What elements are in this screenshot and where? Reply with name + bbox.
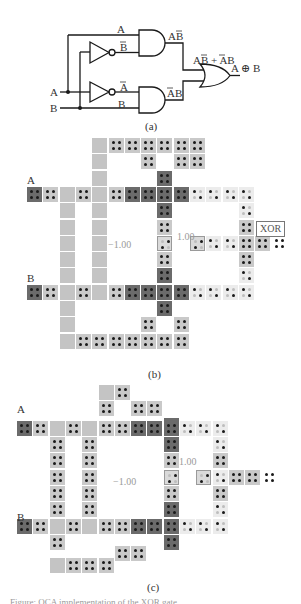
quantum-dot-icon — [108, 430, 111, 433]
quantum-dot-icon — [75, 430, 78, 433]
quantum-dot-icon — [150, 404, 153, 407]
quantum-dot-icon — [150, 424, 153, 427]
quantum-dot-icon — [53, 479, 56, 482]
qca-cell-out — [262, 470, 277, 485]
quantum-dot-icon — [102, 410, 105, 413]
quantum-dot-icon — [53, 511, 56, 514]
quantum-dot-icon — [200, 474, 203, 477]
quantum-dot-icon — [167, 446, 170, 449]
quantum-dot-icon — [216, 479, 219, 482]
quantum-dot-icon — [102, 567, 105, 570]
quantum-dot-icon — [173, 538, 176, 541]
quantum-dot-icon — [134, 528, 137, 531]
quantum-dot-icon — [271, 479, 274, 482]
quantum-dot-icon — [134, 555, 137, 558]
quantum-dot-icon — [75, 522, 78, 525]
quantum-dot-icon — [85, 495, 88, 498]
quantum-dot-icon — [173, 544, 176, 547]
quantum-dot-icon — [108, 522, 111, 525]
quantum-dot-icon — [200, 480, 203, 483]
quantum-dot-icon — [124, 549, 127, 552]
qca-cell-dot — [33, 421, 48, 436]
qca-cell-light — [213, 437, 228, 452]
qca-cell-dark — [131, 421, 146, 436]
quantum-dot-icon — [102, 561, 105, 564]
qca-cell-dot — [115, 421, 130, 436]
quantum-dot-icon — [205, 430, 208, 433]
quantum-dot-icon — [91, 473, 94, 476]
quantum-dot-icon — [91, 561, 94, 564]
quantum-dot-icon — [102, 424, 105, 427]
quantum-dot-icon — [173, 462, 176, 465]
quantum-dot-icon — [173, 446, 176, 449]
quantum-dot-icon — [75, 561, 78, 564]
quantum-dot-icon — [189, 430, 192, 433]
quantum-dot-icon — [91, 489, 94, 492]
quantum-dot-icon — [108, 567, 111, 570]
quantum-dot-icon — [108, 528, 111, 531]
quantum-dot-icon — [108, 410, 111, 413]
quantum-dot-icon — [102, 528, 105, 531]
quantum-dot-icon — [53, 440, 56, 443]
quantum-dot-icon — [156, 404, 159, 407]
quantum-dot-icon — [140, 528, 143, 531]
quantum-dot-icon — [216, 446, 219, 449]
qca-cell-plain — [50, 519, 65, 534]
quantum-dot-icon — [75, 567, 78, 570]
qca-cell-dark — [164, 421, 179, 436]
qca-cell-light — [213, 421, 228, 436]
qca-cell-dot — [66, 558, 81, 573]
quantum-dot-icon — [53, 446, 56, 449]
quantum-dot-icon — [222, 430, 225, 433]
quantum-dot-icon — [222, 489, 225, 492]
quantum-dot-icon — [124, 430, 127, 433]
quantum-dot-icon — [20, 424, 23, 427]
quantum-dot-icon — [140, 430, 143, 433]
quantum-dot-icon — [26, 430, 29, 433]
quantum-dot-icon — [199, 430, 202, 433]
quantum-dot-icon — [167, 522, 170, 525]
quantum-dot-icon — [102, 522, 105, 525]
quantum-dot-icon — [91, 462, 94, 465]
quantum-dot-icon — [167, 424, 170, 427]
quantum-dot-icon — [156, 430, 159, 433]
quantum-dot-icon — [26, 528, 29, 531]
quantum-dot-icon — [124, 394, 127, 397]
quantum-dot-icon — [173, 440, 176, 443]
quantum-dot-icon — [216, 522, 219, 525]
quantum-dot-icon — [222, 446, 225, 449]
quantum-dot-icon — [85, 561, 88, 564]
qca-cell-dark — [17, 421, 32, 436]
quantum-dot-icon — [75, 528, 78, 531]
quantum-dot-icon — [222, 479, 225, 482]
quantum-dot-icon — [232, 479, 235, 482]
qca-cell-dot — [115, 385, 130, 400]
quantum-dot-icon — [265, 479, 268, 482]
quantum-dot-icon — [173, 505, 176, 508]
quantum-dot-icon — [216, 440, 219, 443]
qca-cell-dot — [82, 558, 97, 573]
quantum-dot-icon — [118, 522, 121, 525]
input-b-label-c: B — [17, 512, 24, 523]
panel-c-qca-layout: A B −1.00 1.00 (c) — [0, 0, 301, 604]
quantum-dot-icon — [232, 473, 235, 476]
quantum-dot-icon — [183, 522, 186, 525]
quantum-dot-icon — [205, 522, 208, 525]
quantum-dot-icon — [183, 424, 186, 427]
quantum-dot-icon — [254, 479, 257, 482]
quantum-dot-icon — [75, 424, 78, 427]
qca-cell-dark — [164, 437, 179, 452]
qca-cell-dot — [147, 401, 162, 416]
qca-cell-light — [180, 519, 195, 534]
qca-cell-dot — [50, 535, 65, 550]
qca-cell-plain — [82, 519, 97, 534]
quantum-dot-icon — [216, 473, 219, 476]
quantum-dot-icon — [26, 424, 29, 427]
qca-cell-dot — [50, 470, 65, 485]
quantum-dot-icon — [216, 456, 219, 459]
qca-cell-fix — [196, 470, 211, 485]
quantum-dot-icon — [59, 511, 62, 514]
qca-cell-plain — [50, 421, 65, 436]
quantum-dot-icon — [150, 430, 153, 433]
quantum-dot-icon — [59, 538, 62, 541]
